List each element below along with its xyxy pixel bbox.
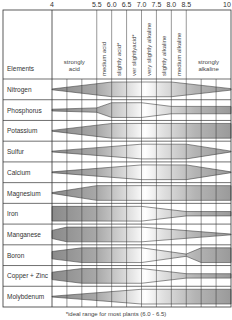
element-row: Iron bbox=[7, 206, 231, 221]
ph-tick-label: 7.0 bbox=[137, 1, 147, 8]
element-name: Boron bbox=[7, 252, 25, 259]
ph-tick-label: 5.5 bbox=[92, 1, 102, 8]
ph-tick-label: 8.0 bbox=[166, 1, 176, 8]
element-name: Magnesium bbox=[7, 190, 41, 198]
ph-tick-labels: 45.56.06.57.07.58.08.510 bbox=[50, 1, 231, 8]
ph-zone-label: acid bbox=[69, 66, 80, 72]
element-name: Phosphorus bbox=[7, 107, 42, 115]
element-name: Sulfur bbox=[7, 148, 25, 155]
element-name: Nitrogen bbox=[7, 86, 32, 94]
ph-zone-label: very slightly alkaline bbox=[146, 22, 152, 76]
element-name: Copper + Zinc bbox=[7, 272, 49, 280]
element-rows: NitrogenPhosphorusPotassiumSulfurCalcium… bbox=[7, 82, 231, 304]
ph-zone-label: slightly acid* bbox=[116, 42, 122, 76]
element-row: Nitrogen bbox=[7, 82, 231, 97]
nutrient-availability-chart: 45.56.06.57.07.58.08.510 Elementsstrongl… bbox=[0, 0, 232, 320]
ph-tick-label: 4 bbox=[50, 1, 54, 8]
ph-tick-label: 6.0 bbox=[107, 1, 117, 8]
element-name: Molybdenum bbox=[7, 293, 44, 301]
element-row: Molybdenum bbox=[7, 289, 231, 304]
ph-tick-label: 7.5 bbox=[152, 1, 162, 8]
ph-zone-label: alkaline bbox=[198, 66, 219, 72]
ph-zone-label: medium acid bbox=[101, 42, 107, 76]
element-name: Calcium bbox=[7, 169, 30, 176]
ph-zone-label: strongly bbox=[198, 59, 219, 65]
element-name: Iron bbox=[7, 210, 19, 217]
element-row: Manganese bbox=[7, 227, 231, 242]
element-row: Potassium bbox=[7, 123, 231, 138]
element-row: Phosphorus bbox=[7, 103, 231, 118]
ph-zone-label: medium alkaline bbox=[176, 32, 182, 76]
element-name: Manganese bbox=[7, 231, 41, 239]
ph-tick-label: 10 bbox=[223, 1, 231, 8]
ph-zone-headers: Elementsstronglyacidmedium acidslightly … bbox=[7, 22, 219, 76]
ph-zone-label: ver slightlyacid* bbox=[131, 34, 137, 76]
element-name: Potassium bbox=[7, 127, 37, 134]
ph-zone-label: slightly alkaline bbox=[161, 35, 167, 76]
element-row: Sulfur bbox=[7, 144, 231, 159]
ph-tick-label: 6.5 bbox=[122, 1, 132, 8]
footnote: *ideal range for most plants (6.0 - 6.5) bbox=[0, 311, 232, 317]
element-row: Copper + Zinc bbox=[7, 269, 231, 284]
element-row: Calcium bbox=[7, 165, 231, 180]
ph-tick-label: 8.5 bbox=[181, 1, 191, 8]
ph-zone-label: strongly bbox=[64, 59, 85, 65]
element-row: Magnesium bbox=[7, 186, 231, 201]
element-row: Boron bbox=[7, 248, 231, 263]
elements-column-header: Elements bbox=[7, 65, 35, 72]
